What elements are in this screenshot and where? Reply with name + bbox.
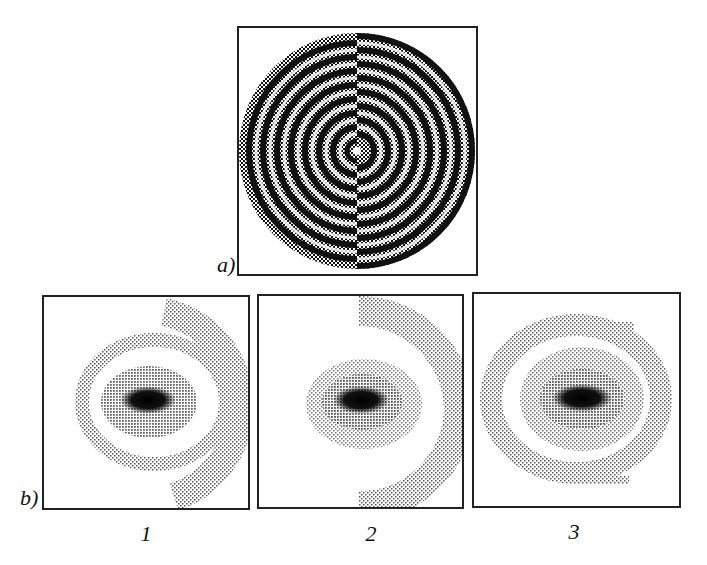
subpanel-caption-1: 1 [126, 521, 166, 547]
concentric-rings-image [239, 28, 476, 274]
panel-b-label: b) [20, 485, 38, 511]
panel-b3-diffraction [472, 292, 681, 508]
diffraction-image-3 [474, 294, 679, 506]
panel-a-ring-pattern [237, 26, 478, 276]
diffraction-image-1 [44, 297, 248, 508]
panel-a-label: a) [217, 252, 235, 278]
subpanel-caption-2: 2 [351, 521, 391, 547]
diffraction-image-2 [259, 296, 462, 507]
subpanel-caption-3: 3 [554, 519, 594, 545]
panel-b1-diffraction [42, 295, 250, 510]
panel-b2-diffraction [257, 294, 464, 509]
